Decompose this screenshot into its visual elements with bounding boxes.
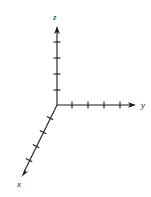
y-axis [57, 102, 136, 109]
z-axis [54, 26, 61, 105]
z-axis-label: z [53, 13, 57, 22]
y-axis-label: y [141, 101, 145, 110]
x-axis-arrowhead [22, 169, 29, 177]
x-axis-label: x [17, 180, 21, 189]
axes-drawing [0, 0, 151, 197]
coordinate-axes-figure: z y x [0, 0, 151, 197]
x-axis-line [24, 105, 57, 172]
x-axis [22, 105, 58, 177]
